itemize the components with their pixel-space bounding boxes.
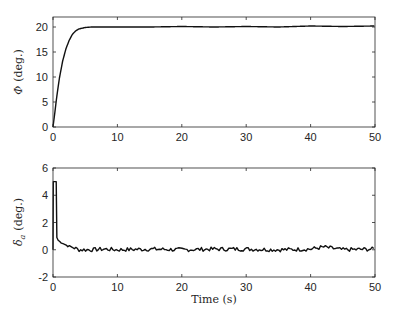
- x-tick-label: 50: [369, 281, 381, 293]
- top-xtick-labels: 01020304050: [50, 131, 381, 143]
- y-tick-label: 0: [42, 244, 48, 256]
- top-axes-frame: [53, 17, 375, 127]
- x-tick-label: 30: [240, 281, 252, 293]
- bottom-axes-frame: [53, 168, 375, 277]
- top-axes: 05101520 01020304050 Φ(deg.): [12, 17, 381, 143]
- x-tick-label: 0: [50, 281, 56, 293]
- bottom-ylabel: δa(deg.): [12, 198, 27, 246]
- y-tick-label: 5: [42, 96, 48, 108]
- x-tick-label: 30: [240, 131, 252, 143]
- x-tick-label: 40: [304, 131, 316, 143]
- x-tick-label: 20: [176, 281, 188, 293]
- bottom-axes: -20246 01020304050 δa(deg.) Time (s): [12, 162, 381, 306]
- x-tick-label: 10: [111, 281, 123, 293]
- x-tick-label: 10: [111, 131, 123, 143]
- phi-line: [53, 26, 374, 127]
- bottom-ticks: [53, 168, 375, 277]
- top-ytick-labels: 05101520: [36, 21, 48, 133]
- x-axis-label: Time (s): [191, 293, 237, 306]
- y-tick-label: 6: [42, 162, 48, 174]
- y-tick-label: 10: [36, 71, 48, 83]
- bottom-ytick-labels: -20246: [38, 162, 48, 283]
- x-tick-label: 40: [304, 281, 316, 293]
- x-tick-label: 0: [50, 131, 56, 143]
- y-tick-label: -2: [38, 271, 48, 283]
- y-tick-label: 15: [36, 46, 48, 58]
- top-ylabel: Φ(deg.): [12, 49, 25, 95]
- y-tick-label: 20: [36, 21, 48, 33]
- delta-a-line: [53, 182, 374, 252]
- top-ticks: [53, 17, 375, 127]
- x-tick-label: 50: [369, 131, 381, 143]
- bottom-xtick-labels: 01020304050: [50, 281, 381, 293]
- y-tick-label: 0: [42, 121, 48, 133]
- y-tick-label: 4: [42, 189, 48, 201]
- figure: 05101520 01020304050 Φ(deg.) -20246 0102…: [0, 0, 398, 322]
- y-tick-label: 2: [42, 217, 48, 229]
- x-tick-label: 20: [176, 131, 188, 143]
